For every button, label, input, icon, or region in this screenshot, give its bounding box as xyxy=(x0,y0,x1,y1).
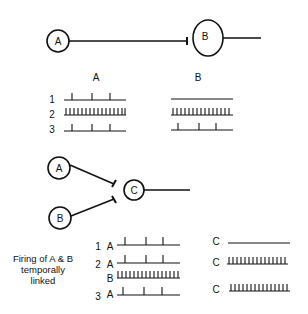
c-row-2-label: C xyxy=(212,257,219,268)
trace-a-row-3 xyxy=(64,124,126,131)
note-line-2: temporally xyxy=(21,264,65,275)
neuron-a-label: A xyxy=(55,36,62,47)
top-circuit: A B xyxy=(47,20,261,56)
bottom-row-1-number: 1 xyxy=(95,241,101,252)
bottom-row-1-label: A xyxy=(107,241,114,252)
neuron-b2-label: B xyxy=(57,213,64,224)
bottom-row-2b-label: B xyxy=(107,273,114,284)
axon-a-to-c xyxy=(70,165,114,184)
top-traces: A B 1 2 3 xyxy=(49,72,233,135)
trace-bottom-b-row-2 xyxy=(117,271,180,278)
row-2-number: 2 xyxy=(49,109,55,120)
trace-bottom-a-row-1 xyxy=(117,237,180,245)
trace-bottom-a-row-2 xyxy=(117,255,180,263)
trace-b-row-3 xyxy=(171,123,233,130)
trace-a-row-1 xyxy=(64,93,126,100)
neuron-c-label: C xyxy=(130,185,137,196)
row-1-number: 1 xyxy=(49,94,55,105)
bottom-row-2-label: A xyxy=(107,259,114,270)
note-line-3: linked xyxy=(31,275,56,286)
c-row-1-label: C xyxy=(212,236,219,247)
axon-b-to-c xyxy=(71,199,114,216)
neural-circuit-diagram: A B A B 1 2 3 xyxy=(0,0,308,314)
bottom-circuit: A B C xyxy=(48,157,190,229)
note-line-1: Firing of A & B xyxy=(13,253,73,264)
bottom-row-3-label: A xyxy=(107,289,114,300)
neuron-b-label: B xyxy=(202,31,209,42)
c-row-3-label: C xyxy=(212,284,219,295)
trace-b-row-2 xyxy=(171,108,233,115)
row-3-number: 3 xyxy=(49,124,55,135)
bottom-traces: Firing of A & B temporally linked 1 A 2 … xyxy=(13,236,290,302)
trace-c-row-2 xyxy=(227,257,288,264)
trace-c-row-3 xyxy=(229,284,290,291)
neuron-a2-label: A xyxy=(56,163,63,174)
trace-a-row-2 xyxy=(64,108,126,115)
column-b-label: B xyxy=(195,72,202,83)
trace-bottom-a-row-3 xyxy=(117,287,180,295)
bottom-row-2-number: 2 xyxy=(95,259,101,270)
column-a-label: A xyxy=(93,72,100,83)
bottom-row-3-number: 3 xyxy=(95,291,101,302)
